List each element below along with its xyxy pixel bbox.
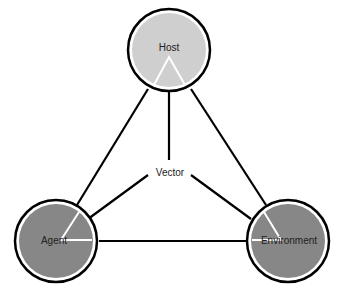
edge-host-environment: [191, 89, 266, 205]
node-environment-label: Environment: [261, 235, 317, 246]
node-host-label: Host: [159, 42, 180, 53]
epidemiologic-triangle-diagram: Host Agent Environment Vector: [0, 0, 338, 286]
node-environment: Environment: [247, 200, 329, 282]
vector-label: Vector: [156, 167, 185, 178]
edge-vector-environment: [191, 175, 251, 219]
edge-host-agent: [77, 89, 148, 205]
node-agent-label: Agent: [41, 235, 67, 246]
node-host: Host: [128, 9, 210, 91]
edge-vector-agent: [88, 175, 148, 219]
node-agent: Agent: [15, 200, 97, 282]
